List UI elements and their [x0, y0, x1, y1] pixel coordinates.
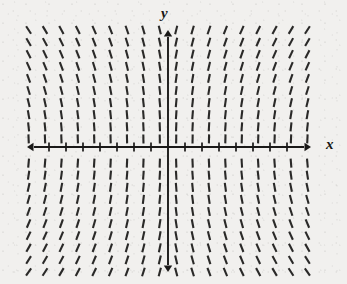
- y-axis-label: y: [161, 6, 168, 21]
- axes-group: [27, 30, 311, 272]
- x-axis-label: x: [326, 137, 334, 152]
- slope-field-plot: [0, 0, 347, 284]
- figure-canvas: ) y x: [0, 0, 347, 284]
